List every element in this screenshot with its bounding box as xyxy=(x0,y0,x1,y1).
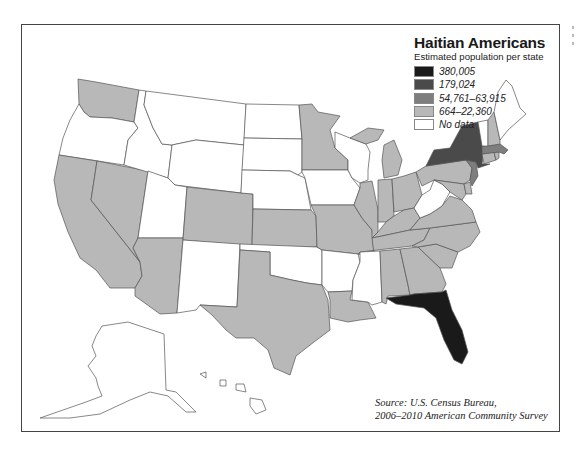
legend-item: 179,024 xyxy=(414,78,554,91)
state-florida xyxy=(386,290,468,364)
source-note: Source: U.S. Census Bureau, 2006–2010 Am… xyxy=(375,396,548,422)
state-indiana xyxy=(378,179,394,222)
legend-swatch-light xyxy=(414,106,434,117)
state-north-dakota xyxy=(244,104,302,139)
legend-swatch-dark xyxy=(414,79,434,90)
state-new-mexico xyxy=(177,240,240,313)
state-hawaii xyxy=(200,372,266,414)
legend-label: 664–22,360 xyxy=(439,106,492,117)
edge-marks xyxy=(572,26,576,50)
legend-swatch-medium xyxy=(414,93,434,104)
state-colorado xyxy=(183,187,253,246)
legend-label: 380,005 xyxy=(439,66,475,77)
legend-item: 664–22,360 xyxy=(414,105,554,118)
map-subtitle: Estimated population per state xyxy=(414,51,554,63)
legend-swatch-black xyxy=(414,66,434,77)
source-prefix: Source: xyxy=(375,397,407,408)
legend-label: 179,024 xyxy=(439,79,475,90)
legend-swatch-nodata xyxy=(414,119,434,130)
legend-item: 54,761–63,915 xyxy=(414,92,554,105)
source-line1: U.S. Census Bureau, xyxy=(407,397,496,408)
map-title: Haitian Americans xyxy=(414,34,554,51)
state-wyoming xyxy=(168,140,244,193)
state-south-dakota xyxy=(242,138,302,175)
legend-item: No data xyxy=(414,118,554,131)
legend-item: 380,005 xyxy=(414,65,554,78)
legend-label: 54,761–63,915 xyxy=(439,93,506,104)
legend: Haitian Americans Estimated population p… xyxy=(414,34,554,131)
legend-label: No data xyxy=(439,119,474,130)
state-montana xyxy=(144,91,246,145)
state-alaska xyxy=(40,322,196,418)
source-line2: 2006–2010 American Community Survey xyxy=(375,409,548,422)
state-kansas xyxy=(252,209,317,247)
